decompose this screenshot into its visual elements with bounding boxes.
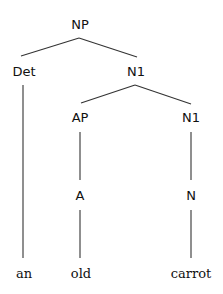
node-n1-bottom: N1 <box>182 110 200 125</box>
node-a: A <box>76 188 85 203</box>
node-n: N <box>186 188 196 203</box>
edge-n1-n1 <box>135 85 191 104</box>
edge-np-det <box>21 38 79 56</box>
edge-n1-ap <box>81 85 135 103</box>
word-old: old <box>71 266 91 281</box>
word-an: an <box>16 266 33 281</box>
node-det: Det <box>12 64 35 79</box>
node-np: NP <box>71 17 89 32</box>
word-carrot: carrot <box>171 266 212 281</box>
node-n1-top: N1 <box>127 64 145 79</box>
syntax-tree: NP Det N1 AP N1 A N an old carrot <box>0 0 223 294</box>
node-ap: AP <box>72 110 89 125</box>
edge-np-n1 <box>79 38 137 57</box>
